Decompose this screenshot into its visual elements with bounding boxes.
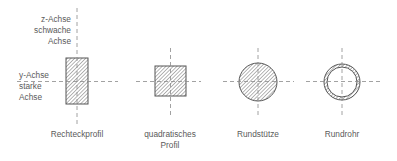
caption-rundrohr: Rundrohr <box>302 129 382 140</box>
solid-circle-section <box>239 63 277 101</box>
caption-rundstuetze: Rundstütze <box>218 129 298 140</box>
y-axis-label-line: y-Achse <box>19 70 49 81</box>
caption-rechteckprofil: Rechteckprofil <box>37 129 117 140</box>
solid-round-profile <box>223 48 294 116</box>
z-axis-label-line: Achse <box>20 36 71 47</box>
caption-line: Rundrohr <box>302 129 382 140</box>
caption-line: Profil <box>130 140 210 151</box>
hollow-round-profile <box>306 48 380 116</box>
y-axis-label-line: Achse <box>19 92 49 103</box>
y-axis-label: y-Achse starke Achse <box>19 70 49 103</box>
y-axis-label-line: starke <box>19 81 49 92</box>
z-axis-label-line: schwache <box>20 25 71 36</box>
caption-line: quadratisches <box>130 129 210 140</box>
square-profile <box>136 48 201 116</box>
caption-quadratisches-profil: quadratisches Profil <box>130 129 210 151</box>
z-axis-label: z-Achse schwache Achse <box>20 14 71 47</box>
caption-line: Rundstütze <box>218 129 298 140</box>
caption-line: Rechteckprofil <box>37 129 117 140</box>
z-axis-label-line: z-Achse <box>20 14 71 25</box>
